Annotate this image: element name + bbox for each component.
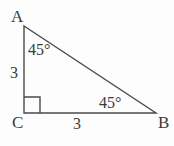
side-length-label-ac: 3 [10,65,18,81]
vertex-label-a: A [11,8,23,25]
triangle-outline [24,26,156,113]
right-angle-marker-icon [24,97,40,113]
triangle-drawing [0,0,174,146]
geometry-figure: A C B 3 3 45° 45° [0,0,174,146]
vertex-label-b: B [158,114,169,131]
angle-label-a: 45° [28,42,50,58]
vertex-label-c: C [12,114,23,131]
side-length-label-cb: 3 [73,116,81,132]
angle-label-b: 45° [99,95,121,111]
